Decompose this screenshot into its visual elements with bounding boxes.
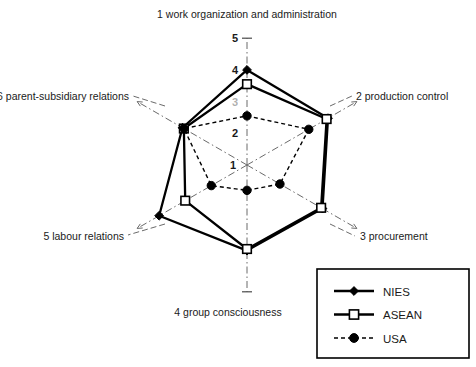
legend-label-usa: USA — [383, 333, 407, 345]
radial-tick-label-1: 1 — [230, 159, 236, 171]
radial-tick-label-2: 2 — [232, 127, 238, 139]
data-point-marker — [243, 112, 251, 120]
legend-marker-usa — [350, 334, 359, 343]
axis-category-label-5: 5 labour relations — [43, 230, 124, 242]
legend-label-asean: ASEAN — [383, 309, 422, 321]
radar-chart: 1 work organization and administration2 … — [0, 0, 476, 367]
axis-category-label-2: 2 production control — [356, 90, 448, 102]
axis-category-label-3: 3 procurement — [360, 230, 428, 242]
series-polygon-asean — [184, 84, 327, 249]
data-point-marker — [317, 203, 326, 212]
radar-axis-spoke — [137, 165, 247, 228]
data-point-marker — [243, 80, 252, 89]
data-point-marker — [276, 180, 284, 188]
data-point-marker — [207, 181, 215, 189]
data-point-marker — [243, 245, 252, 254]
data-point-marker — [243, 186, 251, 194]
axis-label-leader-line — [330, 96, 352, 106]
tick-labels-group: 12345 — [230, 32, 239, 171]
radial-tick-label-3: 3 — [232, 96, 238, 108]
axis-label-leader-line — [330, 224, 355, 236]
data-point-marker — [322, 115, 331, 124]
radial-tick-label-4: 4 — [232, 64, 239, 76]
axis-label-leader-line — [133, 96, 165, 106]
axis-label-leader-line — [128, 224, 165, 235]
axis-category-label-6: 6 parent-subsidiary relations — [0, 90, 129, 102]
axis-category-label-1: 1 work organization and administration — [157, 8, 337, 20]
series-polygon-usa — [184, 116, 309, 190]
data-point-marker — [180, 124, 188, 132]
radial-tick-label-5: 5 — [232, 32, 238, 44]
data-point-marker — [181, 196, 190, 205]
radar-axis-spoke — [137, 102, 247, 165]
data-point-marker — [155, 211, 164, 220]
legend-marker-asean — [349, 310, 358, 319]
radar-chart-svg: 1 work organization and administration2 … — [0, 0, 476, 367]
legend-label-nies: NIES — [383, 286, 410, 298]
data-point-marker — [305, 125, 313, 133]
chart-legend: NIESASEANUSA — [317, 269, 469, 358]
axis-category-label-4: 4 group consciousness — [174, 306, 281, 318]
radar-axis-spoke — [247, 102, 357, 165]
series-group — [155, 66, 333, 255]
